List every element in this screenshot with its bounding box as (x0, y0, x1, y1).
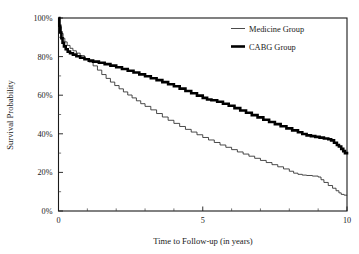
legend-label-cabg-group: CABG Group (249, 43, 296, 52)
series-line-medicine-group (59, 18, 348, 195)
x-tick-label: 0 (56, 216, 60, 225)
chart-canvas: 05100%20%40%60%80%100% Medicine GroupCAB… (0, 0, 359, 254)
chart-legend: Medicine GroupCABG Group (231, 25, 304, 52)
y-tick-label: 60% (37, 91, 52, 100)
y-tick-label: 80% (37, 53, 52, 62)
x-tick-label: 5 (201, 216, 205, 225)
data-series (59, 18, 348, 195)
y-tick-label: 0% (42, 207, 53, 216)
y-tick-label: 40% (37, 130, 52, 139)
y-tick-label: 100% (33, 14, 52, 23)
x-tick-label: 10 (343, 216, 351, 225)
axis-ticks (59, 18, 348, 211)
survival-chart-figure: 05100%20%40%60%80%100% Medicine GroupCAB… (0, 0, 359, 254)
axis-tick-labels: 05100%20%40%60%80%100% (33, 14, 351, 225)
x-axis-title: Time to Follow-up (in years) (153, 236, 253, 246)
y-axis-title: Survival Probability (5, 80, 15, 150)
plot-frame (59, 18, 348, 211)
y-tick-label: 20% (37, 168, 52, 177)
series-line-cabg-group (59, 18, 348, 154)
legend-label-medicine-group: Medicine Group (249, 25, 304, 34)
